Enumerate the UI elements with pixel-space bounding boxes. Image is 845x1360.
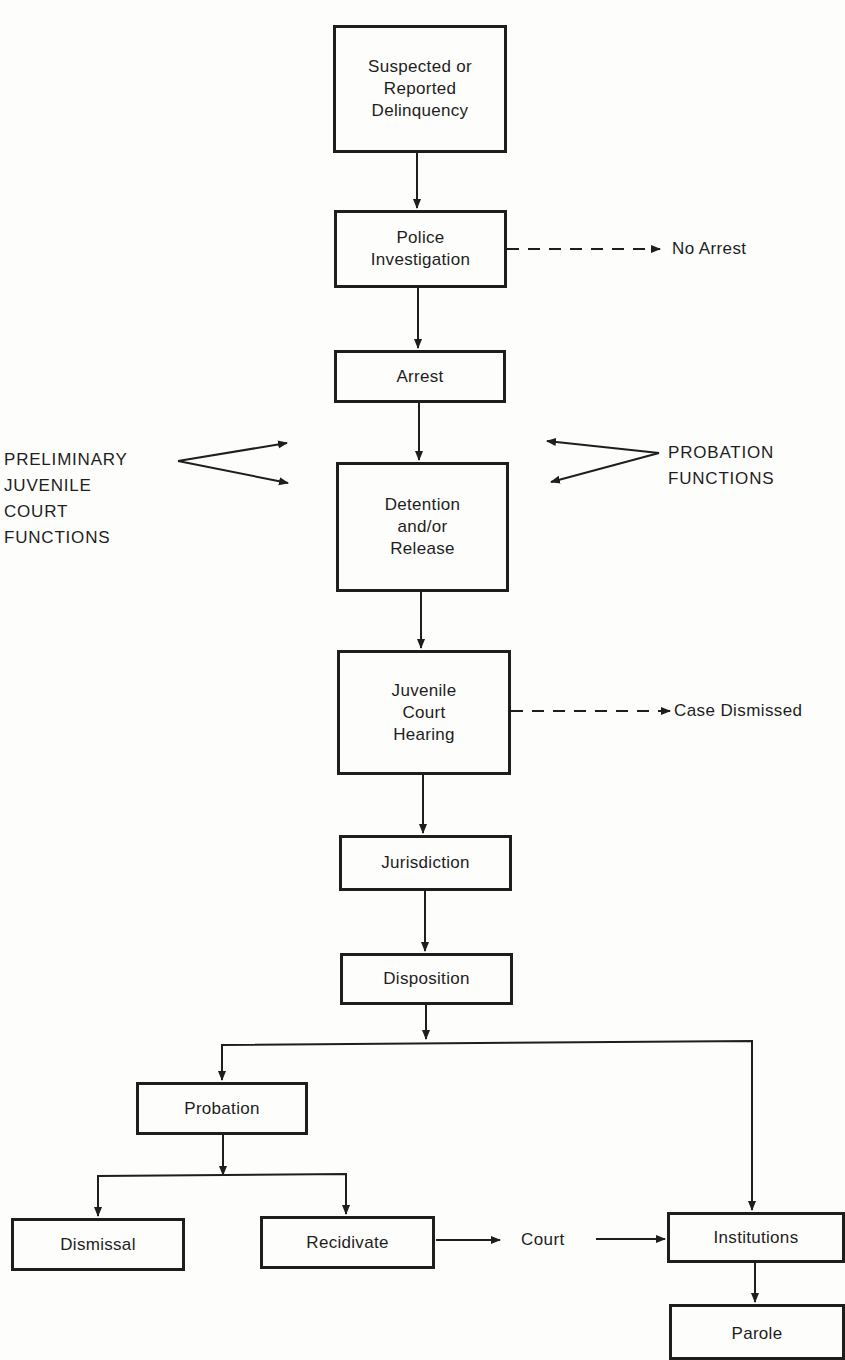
node-detention-release: Detention and/or Release	[336, 462, 509, 592]
node-disposition: Disposition	[340, 953, 513, 1005]
node-label: Police Investigation	[371, 227, 470, 271]
node-label: Detention and/or Release	[385, 494, 460, 560]
node-label: Disposition	[383, 968, 469, 990]
node-police-investigation: Police Investigation	[334, 210, 507, 288]
node-label: Suspected or Reported Delinquency	[368, 56, 472, 122]
node-arrest: Arrest	[334, 350, 506, 403]
label-preliminary-juvenile-court-functions: PRELIMINARY JUVENILE COURT FUNCTIONS	[4, 447, 128, 551]
node-recidivate: Recidivate	[260, 1216, 435, 1269]
label-court: Court	[521, 1229, 565, 1251]
node-label: Institutions	[714, 1227, 799, 1249]
node-dismissal: Dismissal	[11, 1218, 185, 1271]
node-label: Recidivate	[306, 1232, 388, 1254]
label-probation-functions: PROBATION FUNCTIONS	[668, 440, 774, 492]
node-juvenile-court-hearing: Juvenile Court Hearing	[337, 650, 511, 775]
node-suspected-delinquency: Suspected or Reported Delinquency	[333, 25, 507, 153]
node-probation: Probation	[136, 1082, 308, 1135]
node-label: Parole	[732, 1323, 783, 1345]
node-label: Juvenile Court Hearing	[392, 680, 457, 746]
label-case-dismissed: Case Dismissed	[674, 700, 802, 722]
node-parole: Parole	[669, 1304, 845, 1360]
node-label: Jurisdiction	[381, 852, 470, 874]
node-institutions: Institutions	[667, 1212, 845, 1263]
node-label: Probation	[184, 1098, 259, 1120]
node-label: Dismissal	[60, 1234, 135, 1256]
node-label: Arrest	[396, 366, 443, 388]
node-jurisdiction: Jurisdiction	[339, 835, 512, 891]
label-no-arrest: No Arrest	[672, 238, 746, 260]
